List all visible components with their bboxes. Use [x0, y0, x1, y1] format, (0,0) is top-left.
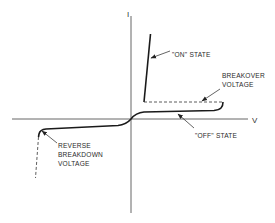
off-state-label: "OFF" STATE [195, 132, 238, 139]
current-axis-label: I [127, 10, 129, 19]
reverse-breakdown-label-2: BREAKDOWN [58, 151, 103, 158]
off-state-curve [131, 102, 223, 119]
reverse-blocking-curve [39, 119, 132, 137]
on-state-arrow [151, 51, 170, 58]
reverse-breakdown-dashed-line [36, 137, 39, 178]
off-state-arrow [178, 114, 194, 128]
voltage-axis-label: V [252, 116, 258, 125]
reverse-breakdown-label-3: VOLTAGE [58, 160, 90, 167]
breakover-voltage-label-2: VOLTAGE [222, 81, 254, 88]
breakover-voltage-label-1: BREAKOVER [222, 72, 265, 79]
breakover-arrow [202, 89, 220, 101]
on-state-label: "ON" STATE [172, 51, 211, 58]
reverse-breakdown-arrow [42, 131, 57, 143]
on-state-curve [144, 34, 151, 102]
reverse-breakdown-label-1: REVERSE [58, 142, 91, 149]
iv-characteristic-diagram: I V "ON" STATE BREAKOVER VOLTAGE "OFF" S… [0, 0, 275, 223]
